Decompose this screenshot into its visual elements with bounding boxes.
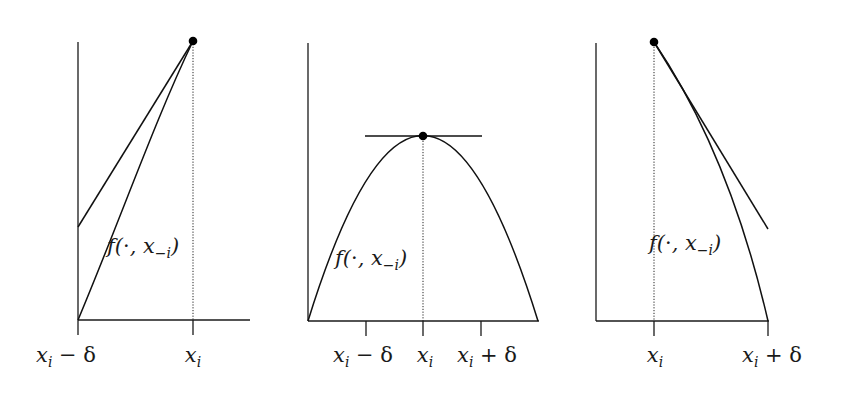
curve-label-middle: f(·, x−i) (335, 248, 407, 269)
label-f: f( (649, 231, 665, 255)
label-close: ) (171, 234, 179, 258)
max-point (189, 37, 198, 46)
tick-x: x (185, 343, 197, 367)
label-sub: −i (697, 242, 713, 258)
label-dot: · (123, 234, 130, 258)
tick-rest: − δ (52, 343, 96, 367)
label-sub: −i (383, 257, 399, 273)
tick-x: x (647, 343, 659, 367)
label-close: ) (399, 246, 407, 270)
max-point (419, 132, 428, 141)
tick-label-xi: xi (417, 345, 433, 366)
tick-label-xi-plus-delta: xi + δ (742, 345, 802, 366)
function-curve (654, 42, 768, 321)
function-curve (78, 41, 193, 320)
tick-x: x (457, 343, 469, 367)
panel-left (78, 37, 250, 335)
curve-label-left: f(·, x−i) (107, 236, 179, 257)
tick-x: x (417, 343, 429, 367)
tick-sub: i (197, 354, 201, 370)
tick-sub: i (48, 354, 52, 370)
tick-label-xi-minus-delta: xi − δ (333, 345, 393, 366)
label-dot: · (665, 231, 672, 255)
tick-sub: i (429, 354, 433, 370)
tick-label-xi-minus-delta: xi − δ (36, 345, 96, 366)
tick-label-xi: xi (185, 345, 201, 366)
tick-rest: + δ (758, 343, 802, 367)
support-line (78, 41, 193, 227)
tick-sub: i (754, 354, 758, 370)
label-x: , x (130, 234, 155, 258)
panel-right (596, 38, 769, 336)
tick-label-xi: xi (647, 345, 663, 366)
tick-sub: i (469, 354, 473, 370)
label-x: , x (358, 246, 383, 270)
label-f: f( (107, 234, 123, 258)
max-point (650, 38, 659, 47)
panel-middle (308, 43, 539, 336)
tick-label-xi-plus-delta: xi + δ (457, 345, 517, 366)
curve-label-right: f(·, x−i) (649, 233, 721, 254)
tick-x: x (333, 343, 345, 367)
tick-sub: i (345, 354, 349, 370)
label-sub: −i (155, 245, 171, 261)
label-dot: · (351, 246, 358, 270)
diagram-canvas (0, 0, 842, 394)
tick-x: x (36, 343, 48, 367)
tick-sub: i (659, 354, 663, 370)
label-x: , x (672, 231, 697, 255)
label-close: ) (713, 231, 721, 255)
label-f: f( (335, 246, 351, 270)
tick-rest: − δ (349, 343, 393, 367)
tick-x: x (742, 343, 754, 367)
tick-rest: + δ (473, 343, 517, 367)
